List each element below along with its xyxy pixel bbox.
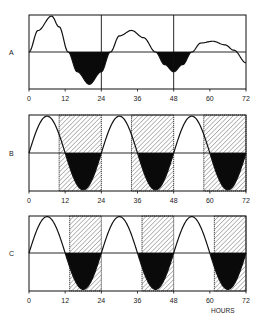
x-tick-label: 24: [97, 197, 105, 204]
panel-label-a: A: [9, 49, 14, 56]
panel-c-ticks: 0122436486072: [27, 291, 250, 304]
panel-a-ticks: 0122436486072: [27, 89, 250, 102]
panel-a: A 0122436486072: [9, 15, 250, 102]
panel-b: B 0122436486072: [9, 115, 250, 204]
x-tick-label: 12: [61, 95, 69, 102]
x-tick-label: 24: [97, 297, 105, 304]
x-tick-label: 48: [170, 297, 178, 304]
panel-label-b: B: [9, 150, 14, 157]
panel-a-curve: [29, 16, 246, 84]
x-tick-label: 12: [61, 197, 69, 204]
x-tick-label: 12: [61, 297, 69, 304]
x-tick-label: 48: [170, 95, 178, 102]
figure: A 0122436486072 B 0122436486072 C 012243…: [0, 0, 256, 318]
panel-b-ticks: 0122436486072: [27, 191, 250, 204]
panel-a-fill: [69, 52, 191, 84]
x-tick-label: 48: [170, 197, 178, 204]
x-tick-label: 60: [206, 95, 214, 102]
x-tick-label: 72: [242, 297, 250, 304]
panel-a-frame: [29, 15, 246, 89]
x-tick-label: 0: [27, 297, 31, 304]
x-axis-label: HOURS: [211, 307, 235, 314]
x-tick-label: 60: [206, 197, 214, 204]
x-tick-label: 36: [134, 95, 142, 102]
x-tick-label: 0: [27, 197, 31, 204]
x-tick-label: 60: [206, 297, 214, 304]
x-tick-label: 36: [134, 197, 142, 204]
x-tick-label: 0: [27, 95, 31, 102]
panel-label-c: C: [9, 250, 14, 257]
x-tick-label: 24: [97, 95, 105, 102]
x-tick-label: 72: [242, 197, 250, 204]
panel-c: C 0122436486072: [9, 216, 250, 304]
x-tick-label: 72: [242, 95, 250, 102]
x-tick-label: 36: [134, 297, 142, 304]
